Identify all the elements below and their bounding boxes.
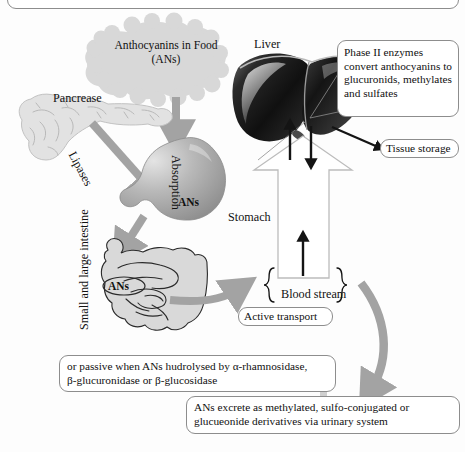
stomach-ans-label: ANs: [178, 196, 199, 209]
arrow-stomach-to-intestine: [125, 216, 144, 246]
stomach-label: Stomach: [228, 210, 271, 224]
intestine-label: Small and large intestine: [77, 209, 91, 330]
tissue-storage-text: Tissue storage: [386, 142, 453, 156]
anthocyanins-source-label: Anthocyanins in Food (ANs): [100, 39, 232, 67]
phase-two-enzymes-callout: Phase II enzymes convert anthocyanins to…: [337, 40, 459, 117]
clipped-top-box: [7, 0, 459, 9]
pancreas-label: Pancrease: [53, 91, 102, 105]
arrow-lipases-pancreas-to-stomach: [92, 123, 148, 186]
phase-two-enzymes-text: Phase II enzymes convert anthocyanins to…: [344, 46, 452, 100]
arrow-excretion-pathway: [361, 283, 384, 388]
active-transport-text: Active transport: [244, 310, 327, 324]
active-transport-callout: Active transport: [238, 307, 333, 326]
intestine-ans-label: ANs: [108, 280, 129, 293]
tissue-storage-callout: Tissue storage: [380, 139, 459, 158]
blood-stream-label: Blood stream: [281, 287, 346, 301]
anthocyanin-metabolism-diagram: Anthocyanins in Food (ANs) Liver Pancrea…: [0, 0, 465, 452]
passive-hydrolysis-callout: or passive when ANs hudrolysed by α-rham…: [59, 355, 336, 392]
passive-hydrolysis-text: or passive when ANs hudrolysed by α-rham…: [67, 360, 328, 387]
liver-label: Liver: [254, 37, 280, 51]
excretion-text: ANs excrete as methylated, sulfo-conjuga…: [194, 401, 452, 428]
excretion-callout: ANs excrete as methylated, sulfo-conjuga…: [186, 396, 460, 434]
